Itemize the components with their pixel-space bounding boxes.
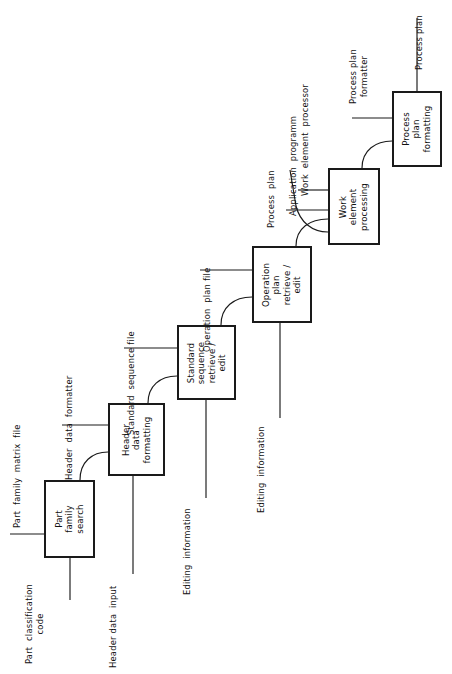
edge-label-application-programm: Application programm (288, 116, 299, 216)
arc-box1-to-box2 (80, 452, 108, 480)
edge-label-part-family-matrix-file: Part family matrix file (12, 424, 23, 528)
arc-box5-to-box6 (362, 141, 392, 168)
edge-label-standard-sequence-file: Standard sequence file (126, 331, 137, 435)
diagram-canvas: Part family search Header data formattin… (0, 0, 452, 674)
edge-label-header-data-input: Header data input (108, 586, 119, 669)
process-box-header-data-formatting[interactable]: Header data formatting (108, 403, 165, 476)
process-box-label: Part family search (54, 504, 85, 533)
arc-box2-to-box3 (148, 376, 177, 403)
edge-label-process-plan-out: Process plan (414, 15, 425, 70)
process-box-label: Work element processing (338, 183, 369, 231)
edge-label-editing-information-1: Editing information (182, 508, 193, 595)
edge-label-operation-plan-file: Operation plan file (202, 267, 213, 352)
edge-label-process-plan-formatter: Process plan formatter (348, 49, 369, 104)
edge-label-editing-information-2: Editing information (256, 426, 267, 513)
edge-label-process-plan-in: Process plan (266, 170, 277, 228)
edge-label-work-element-processor: Work element processor (300, 84, 311, 196)
arc-box3-to-box4 (221, 297, 252, 325)
process-box-work-element-processing[interactable]: Work element processing (328, 168, 380, 245)
process-box-operation-plan-retrieve-edit[interactable]: Operation plan retrieve / edit (252, 246, 312, 323)
edge-label-header-data-formatter: Header data formatter (64, 376, 75, 480)
process-box-part-family-search[interactable]: Part family search (44, 480, 95, 558)
process-box-label: Operation plan retrieve / edit (261, 262, 303, 306)
edge-label-part-classification-code: Part classification code (24, 584, 45, 664)
arc-box4-to-box5 (296, 219, 328, 246)
process-box-process-plan-formatting[interactable]: Process plan formatting (392, 91, 442, 167)
process-box-label: Process plan formatting (401, 106, 432, 153)
